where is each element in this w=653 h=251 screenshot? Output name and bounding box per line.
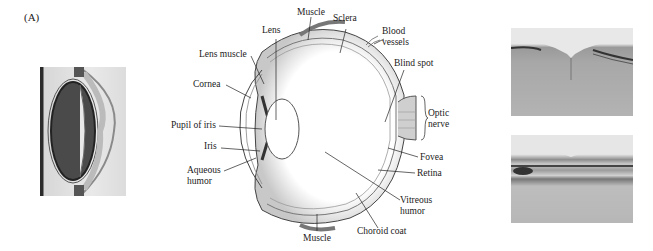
label-optic-nerve-2: nerve: [428, 119, 449, 130]
label-cornea: Cornea: [193, 79, 220, 90]
label-fovea: Fovea: [420, 152, 443, 163]
label-iris: Iris: [204, 141, 217, 152]
label-lens-muscle: Lens muscle: [199, 49, 247, 60]
label-lens: Lens: [262, 25, 280, 36]
muscle-bottom-shape: [300, 225, 335, 229]
label-retina: Retina: [417, 168, 442, 179]
label-muscle-bottom: Muscle: [303, 233, 331, 244]
label-optic-nerve-1: Optic: [428, 108, 449, 119]
optic-nerve-shape: [398, 96, 416, 140]
lens-shape: [265, 99, 299, 159]
label-aqueous-humor-1: Aqueous: [187, 165, 221, 176]
label-vitreous-humor-1: Vitreous: [400, 195, 432, 206]
label-muscle-top: Muscle: [297, 7, 325, 18]
label-aqueous-humor-2: humor: [187, 176, 212, 187]
micrograph-top-shapes: [511, 28, 633, 116]
label-blood-vessels-2: vessels: [382, 37, 409, 48]
label-pupil-of-iris: Pupil of iris: [171, 120, 216, 131]
label-sclera: Sclera: [333, 13, 357, 24]
retina-micrograph-top: [511, 28, 633, 116]
retina-micrograph-bottom: [511, 135, 633, 223]
label-blood-vessels-1: Blood: [382, 26, 405, 37]
label-choroid-coat: Choroid coat: [357, 226, 406, 237]
label-blind-spot: Blind spot: [394, 58, 433, 69]
micrograph-bottom-shapes: [511, 135, 633, 223]
label-vitreous-humor-2: humor: [400, 206, 425, 217]
